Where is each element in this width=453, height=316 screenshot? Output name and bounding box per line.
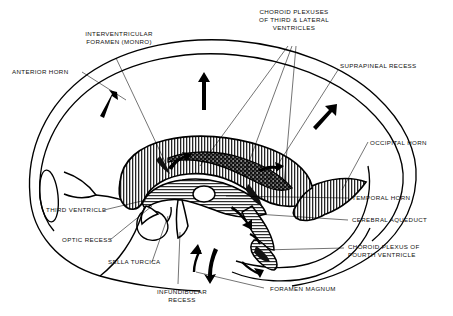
- leader-sella-turcica: [152, 216, 168, 262]
- label-optic-recess: OPTIC RECESS: [62, 236, 112, 244]
- label-suprapineal-recess: SUPRAPINEAL RECESS: [340, 62, 417, 70]
- ventricular-system-diagram: ANTERIOR HORN INTERVENTRICULAR FORAMEN (…: [0, 0, 453, 316]
- label-temporal-horn: TEMPORAL HORN: [352, 194, 410, 202]
- diagram-canvas: [0, 0, 453, 316]
- arrow-down-center: [204, 248, 218, 284]
- leader-infundibular-recess: [178, 232, 180, 284]
- label-infundibular-recess: INFUNDIBULAR RECESS: [132, 288, 232, 304]
- label-choroid-plexuses: CHOROID PLEXUSES OF THIRD & LATERAL VENT…: [234, 8, 354, 33]
- label-choroid-plexus-fourth: CHOROID PLEXUS OF FOURTH VENTRICLE: [348, 243, 420, 259]
- label-cerebral-aqueduct: CEREBRAL AQUEDUCT: [352, 216, 427, 224]
- leader-foramen-magnum: [196, 272, 264, 288]
- arrow-up-center: [198, 72, 210, 110]
- label-foramen-magnum: FORAMEN MAGNUM: [270, 285, 336, 293]
- leader-suprapineal: [268, 70, 338, 180]
- leader-interventricular-foramen: [116, 58, 166, 164]
- arrow-up-fossa: [190, 244, 202, 254]
- arrow-up-right: [313, 104, 337, 130]
- arrow-up-left: [100, 90, 118, 118]
- massa-intermedia: [193, 186, 215, 202]
- label-third-ventricle: THIRD VENTRICLE: [46, 206, 107, 214]
- leader-optic-recess: [110, 206, 152, 240]
- label-occipital-horn: OCCIPITAL HORN: [370, 139, 427, 147]
- label-sella-turcica: SELLA TURCICA: [108, 258, 161, 266]
- label-interventricular-foramen: INTERVENTRICULAR FORAMEN (MONRO): [60, 30, 178, 46]
- leader-anterior-horn: [82, 72, 126, 100]
- label-anterior-horn: ANTERIOR HORN: [12, 68, 68, 76]
